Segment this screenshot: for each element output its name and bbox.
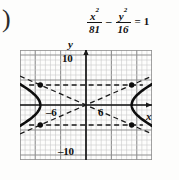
fraction-x-squared-over-81: x2 81: [87, 8, 102, 35]
variable-y: y: [119, 10, 124, 22]
problem-label: ): [2, 6, 11, 32]
x-tick-label-negative-6: –6: [46, 106, 56, 118]
marked-point-4: [38, 122, 43, 127]
y-axis-label: y: [68, 38, 73, 50]
minus-operator: –: [106, 15, 112, 27]
equation-expression: x2 81 – y2 16 = 1: [86, 8, 149, 35]
numerator-y-squared: y2: [117, 8, 129, 22]
fraction-y-squared-over-16: y2 16: [116, 8, 131, 35]
marked-point-2: [129, 82, 134, 87]
x-tick-label-6: 6: [98, 106, 103, 118]
marked-point-3: [129, 122, 134, 127]
hyperbola-graph: y x 10 –10 –6 6: [20, 50, 152, 160]
plot-svg: [20, 50, 152, 160]
numerator-x-squared: x2: [88, 8, 101, 22]
x-axis-label: x: [146, 110, 152, 122]
marked-point-1: [38, 82, 43, 87]
exponent-2: 2: [96, 6, 100, 14]
equals-sign: =: [135, 15, 141, 27]
figure-page: ) x2 81 – y2 16 = 1 y x 10 –10 –6 6: [0, 0, 179, 180]
denominator-81: 81: [87, 22, 102, 35]
y-tick-label-negative-10: –10: [58, 145, 74, 157]
y-tick-label-10: 10: [62, 52, 72, 64]
right-hand-side-1: 1: [144, 15, 150, 27]
exponent-2: 2: [124, 6, 128, 14]
denominator-16: 16: [116, 22, 131, 35]
variable-x: x: [90, 10, 96, 22]
